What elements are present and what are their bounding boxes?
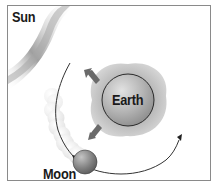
moon-sphere xyxy=(73,150,97,174)
moon-label: Moon xyxy=(43,165,76,182)
diagram-canvas xyxy=(0,0,218,192)
orbit-arrow-head-icon xyxy=(177,134,182,141)
earth-label: Earth xyxy=(112,91,143,108)
sun-label: Sun xyxy=(12,8,35,25)
